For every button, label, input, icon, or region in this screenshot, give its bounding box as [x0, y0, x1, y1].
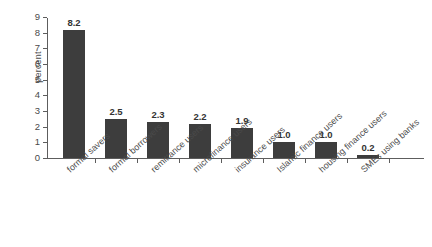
y-tick-label: 9: [35, 11, 40, 22]
bar: 8.2: [63, 30, 85, 158]
y-tick: 7: [43, 48, 47, 49]
y-tick-label: 5: [35, 74, 40, 85]
y-tick-label: 8: [35, 27, 40, 38]
x-tick: [389, 159, 390, 163]
bar-value-label: 2.3: [151, 109, 164, 120]
y-tick: 9: [43, 17, 47, 18]
bar-value-label: 8.2: [67, 17, 80, 28]
bar-value-label: 2.5: [109, 106, 122, 117]
y-tick-label: 4: [35, 89, 40, 100]
bar-value-label: 0.2: [361, 142, 374, 153]
y-tick-label: 1: [35, 136, 40, 147]
x-tick: [179, 159, 180, 163]
y-tick: 6: [43, 64, 47, 65]
y-tick: 8: [43, 33, 47, 34]
x-tick: [221, 159, 222, 163]
y-tick: 3: [43, 111, 47, 112]
x-tick: [137, 159, 138, 163]
y-tick-label: 6: [35, 58, 40, 69]
x-tick: [263, 159, 264, 163]
x-tick: [347, 159, 348, 163]
y-tick-label: 2: [35, 121, 40, 132]
y-tick: 0: [43, 158, 47, 159]
x-tick: [305, 159, 306, 163]
bar-value-label: 2.2: [193, 111, 206, 122]
y-tick: 5: [43, 80, 47, 81]
y-tick: 1: [43, 142, 47, 143]
y-tick: 2: [43, 127, 47, 128]
y-axis-line: [47, 18, 48, 159]
y-tick-label: 3: [35, 105, 40, 116]
bar-chart: percent 0123456789 8.22.52.32.21.91.01.0…: [0, 0, 432, 247]
y-tick-label: 7: [35, 42, 40, 53]
x-tick: [95, 159, 96, 163]
y-tick-label: 0: [35, 152, 40, 163]
y-tick: 4: [43, 95, 47, 96]
